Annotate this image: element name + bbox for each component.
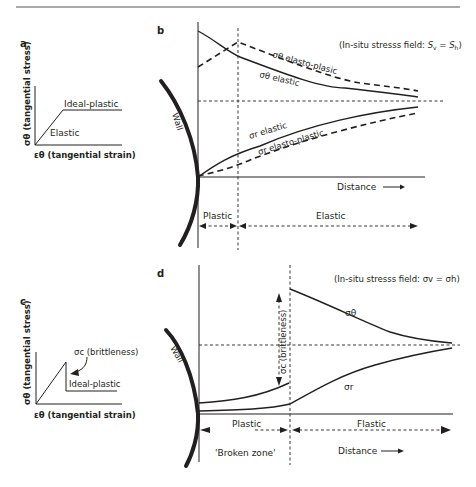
- panel-d-elastic-right-arrow-icon: [441, 426, 451, 434]
- panel-d-broken-zone-label: 'Broken zone': [215, 448, 276, 458]
- panel-d-sigma-theta-label: σθ: [345, 308, 357, 318]
- panel-d: d σθ σr σc (brittleness) (In-situ stress…: [157, 265, 460, 466]
- panel-d-brittleness-down-arrow-icon: [276, 377, 282, 386]
- panel-b-label: b: [157, 25, 164, 36]
- panel-b-elastic-label: Elastic: [316, 211, 345, 221]
- panel-d-distance-arrow-icon: [398, 449, 404, 454]
- panel-b-wall: [161, 81, 198, 245]
- panel-d-plastic-right-arrow-icon: [280, 427, 288, 433]
- panel-d-elastic-left-arrow-icon: [292, 427, 300, 433]
- panel-c-brittleness-label: σc (brittleness): [74, 347, 138, 357]
- panel-b: b σθ elasto-plasic σθ elastic σr elastic…: [157, 22, 462, 250]
- panel-c-y-axis-label: σθ (tangential stress): [22, 300, 32, 405]
- panel-b-plastic-left-arrow-icon: [199, 223, 206, 229]
- panel-d-sigma-theta-curve: [290, 289, 452, 343]
- panel-d-brittleness-up-arrow-icon: [276, 293, 282, 302]
- panel-b-elastic-right-arrow-icon: [410, 223, 418, 229]
- panel-d-sigma-r-label: σr: [344, 382, 354, 392]
- panel-b-elastic-left-arrow-icon: [239, 223, 246, 229]
- panel-c-brittleness-arrow-icon: [70, 369, 79, 376]
- panel-d-distance-label: Distance: [338, 446, 378, 456]
- panel-d-elastic-label: Flastic: [357, 419, 386, 429]
- panel-d-brittleness-label: σc (brittleness): [278, 310, 288, 374]
- panel-c-x-axis-label: εθ (tangential strain): [34, 410, 136, 420]
- panel-a: a σθ (tangential stress) Ideal-plastic E…: [20, 38, 136, 160]
- panel-d-plastic-left-arrow-icon: [200, 427, 210, 433]
- panel-c-ideal-plastic-label: Ideal-plastic: [69, 379, 121, 389]
- panel-a-x-axis-label: εθ (tangential strain): [34, 150, 136, 160]
- panel-d-plastic-label: Plastic: [232, 419, 261, 429]
- panel-b-plastic-label: Plastic: [203, 211, 232, 221]
- panel-b-plastic-right-arrow-icon: [230, 223, 237, 229]
- panel-b-sigma-r-elastoplastic-curve: [198, 113, 418, 176]
- panel-d-label: d: [157, 268, 164, 279]
- panel-b-distance-label: Distance: [337, 182, 377, 192]
- panel-d-sigma-theta-plastic-curve: [199, 383, 289, 403]
- panel-d-sigma-r-curve: [290, 348, 452, 404]
- panel-a-ideal-plastic-label: Ideal-plastic: [64, 99, 119, 109]
- panel-c: c σθ (tangential stress) σc (brittleness…: [20, 296, 138, 420]
- panel-b-distance-arrow-icon: [400, 185, 405, 190]
- panel-b-stress-field-label: (In-situ stresss field: Sv = Sh): [339, 40, 462, 51]
- figure-canvas: a σθ (tangential stress) Ideal-plastic E…: [0, 0, 476, 487]
- panel-a-elastic-label: Elastic: [50, 128, 79, 138]
- panel-d-stress-field-label: (In-situ stresss field: σv = σh): [334, 274, 460, 284]
- panel-a-y-axis-label: σθ (tangential stress): [22, 41, 32, 146]
- panel-d-sigma-r-plastic-curve: [199, 404, 290, 411]
